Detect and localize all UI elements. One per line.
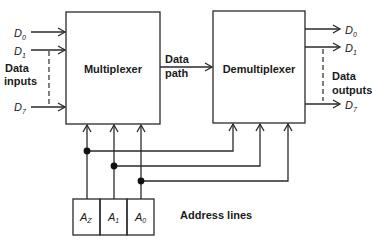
data-path-label-line1: Data <box>165 53 190 65</box>
output-d1-label: D1 <box>345 42 357 56</box>
multiplexer-label: Multiplexer <box>84 63 143 75</box>
junction-dot-a1 <box>111 163 118 170</box>
data-outputs: D0 D1 D7 Data outputs <box>305 24 372 113</box>
data-outputs-label-line2: outputs <box>332 84 372 96</box>
data-inputs-label-line2: inputs <box>4 75 37 87</box>
address-a0-to-demux <box>141 124 288 181</box>
address-a0-label: A0 <box>134 211 146 224</box>
address-az-label: AZ <box>79 211 92 224</box>
demultiplexer-block: Demultiplexer <box>213 11 305 123</box>
junction-dot-az <box>84 148 91 155</box>
address-az-to-demux <box>87 124 233 151</box>
address-lines: AZ A1 A0 Address lines <box>73 124 288 235</box>
input-d7-label: D7 <box>14 101 27 115</box>
input-d0-label: D0 <box>14 27 26 41</box>
data-inputs: D0 D1 D7 Data inputs <box>4 27 65 115</box>
address-a1-label: A1 <box>107 211 119 224</box>
mux-demux-diagram: Multiplexer Demultiplexer Data path D0 D… <box>0 0 372 240</box>
address-a1-to-demux <box>114 124 260 166</box>
demultiplexer-label: Demultiplexer <box>223 63 296 75</box>
input-d1-label: D1 <box>14 45 26 59</box>
address-register: AZ A1 A0 <box>73 199 154 235</box>
data-inputs-label-line1: Data <box>5 62 30 74</box>
address-lines-label: Address lines <box>180 209 252 221</box>
data-path-label-line2: path <box>165 67 189 79</box>
output-d7-label: D7 <box>345 99 358 113</box>
junction-dot-a0 <box>138 178 145 185</box>
output-d0-label: D0 <box>345 24 357 38</box>
multiplexer-block: Multiplexer <box>66 12 160 124</box>
data-outputs-label-line1: Data <box>332 70 357 82</box>
data-path: Data path <box>160 53 212 79</box>
